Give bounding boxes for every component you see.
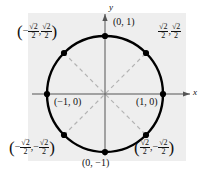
q4-y-fraction: √22	[158, 139, 168, 156]
unit-circle-figure: x y (0, 1) (1, 0) (−1, 0) (0, −1) (−√22,…	[0, 0, 212, 173]
x-axis-label: x	[193, 88, 197, 97]
label-point-q2: (−√22,√22)	[17, 22, 57, 40]
q4-x-fraction: √22	[140, 139, 150, 156]
y-axis-label: y	[109, 3, 113, 12]
q1-x-fraction: √22	[158, 23, 168, 40]
point-1-0	[160, 91, 166, 97]
q2-x-fraction: √22	[28, 23, 38, 40]
x-axis-arrowhead	[183, 91, 190, 96]
label-point-q1: √22,√22	[158, 22, 181, 40]
label-point-q3: (−√22,−√22)	[9, 138, 55, 156]
label-point-neg1-0: (−1, 0)	[54, 97, 81, 107]
q2-y-fraction: √22	[41, 23, 51, 40]
point-0-1	[102, 33, 108, 39]
point-q1	[143, 50, 149, 56]
point-q3	[61, 132, 67, 138]
q3-close-paren: )	[49, 141, 55, 155]
label-point-q4: (√22,−√22)	[134, 138, 174, 156]
point-neg1-0	[44, 91, 50, 97]
q2-close-paren: )	[52, 25, 58, 39]
q3-y-fraction: √22	[39, 139, 49, 156]
q3-x-fraction: √22	[20, 139, 30, 156]
label-point-1-0: (1, 0)	[136, 97, 158, 107]
label-point-0-neg1: (0, −1)	[82, 158, 109, 168]
point-q2	[61, 50, 67, 56]
label-point-0-1: (0, 1)	[113, 17, 135, 27]
q4-close-paren: )	[169, 141, 175, 155]
q1-y-fraction: √22	[171, 23, 181, 40]
y-axis-arrowhead	[102, 14, 107, 21]
point-0-neg1	[102, 149, 108, 155]
